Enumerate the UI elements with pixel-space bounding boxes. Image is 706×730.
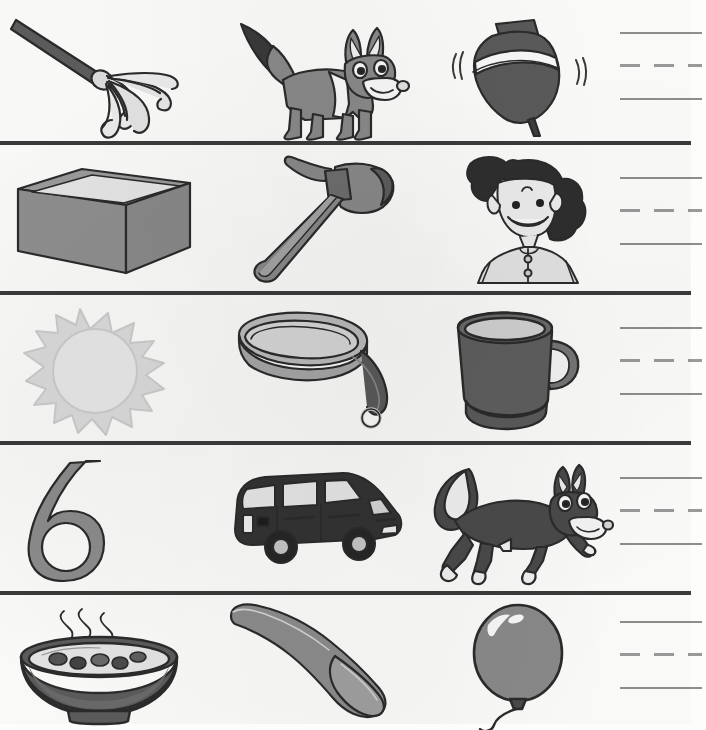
handwriting-line-top bbox=[620, 32, 702, 34]
picture-cell-mop bbox=[0, 0, 215, 150]
picture-cell-mug bbox=[420, 295, 615, 445]
answer-lines-cell bbox=[615, 0, 691, 150]
handwriting-line-top bbox=[620, 621, 702, 623]
van-icon bbox=[225, 455, 410, 585]
handwriting-line-bottom bbox=[620, 543, 702, 545]
handwriting-line-dashed bbox=[620, 509, 702, 512]
fox-running-icon bbox=[425, 455, 610, 585]
worksheet-row bbox=[0, 445, 691, 595]
picture-cell-soup bbox=[0, 595, 215, 730]
handwriting-line-dashed bbox=[620, 209, 702, 212]
handwriting-line-dashed bbox=[620, 64, 702, 67]
answer-lines-cell bbox=[615, 595, 691, 724]
sun-icon bbox=[8, 305, 208, 435]
handwriting-line-bottom bbox=[620, 687, 702, 689]
worksheet-row bbox=[0, 0, 691, 150]
picture-cell-box bbox=[0, 145, 215, 295]
pan-icon bbox=[225, 305, 410, 435]
soup-bowl-icon bbox=[8, 601, 208, 725]
handwriting-line-top bbox=[620, 477, 702, 479]
handwriting-line-bottom bbox=[620, 243, 702, 245]
handwriting-lines[interactable] bbox=[620, 327, 706, 401]
picture-cell-balloon bbox=[420, 595, 615, 728]
handwriting-line-dashed bbox=[620, 653, 702, 656]
picture-cell-van bbox=[215, 445, 420, 595]
picture-cell-fox bbox=[215, 0, 420, 150]
numeral-six-icon bbox=[8, 455, 208, 585]
fox-standing-icon bbox=[225, 10, 410, 140]
picture-cell-top bbox=[420, 0, 615, 150]
worksheet-row bbox=[0, 145, 691, 295]
spinning-top-icon bbox=[430, 10, 605, 140]
picture-cell-fox-running bbox=[420, 445, 615, 595]
mug-icon bbox=[430, 305, 605, 435]
answer-lines-cell bbox=[615, 145, 691, 295]
mom-icon bbox=[430, 155, 605, 285]
balloon-icon bbox=[430, 599, 605, 723]
spoon-icon bbox=[225, 598, 410, 722]
picture-cell-six bbox=[0, 445, 215, 595]
worksheet-row bbox=[0, 295, 691, 445]
picture-cell-ax bbox=[215, 145, 420, 295]
handwriting-line-top bbox=[620, 177, 702, 179]
picture-cell-pan bbox=[215, 295, 420, 445]
picture-cell-spoon bbox=[215, 595, 420, 724]
ax-icon bbox=[225, 155, 410, 285]
handwriting-line-top bbox=[620, 327, 702, 329]
answer-lines-cell bbox=[615, 445, 691, 595]
handwriting-line-bottom bbox=[620, 98, 702, 100]
handwriting-lines[interactable] bbox=[620, 621, 706, 695]
box-icon bbox=[8, 155, 208, 285]
answer-lines-cell bbox=[615, 295, 691, 445]
mop-icon bbox=[8, 10, 208, 140]
handwriting-line-bottom bbox=[620, 393, 702, 395]
picture-cell-sun bbox=[0, 295, 215, 445]
worksheet-row bbox=[0, 595, 691, 724]
handwriting-line-dashed bbox=[620, 359, 702, 362]
picture-cell-mom bbox=[420, 145, 615, 295]
handwriting-lines[interactable] bbox=[620, 177, 706, 251]
handwriting-lines[interactable] bbox=[620, 32, 706, 106]
handwriting-lines[interactable] bbox=[620, 477, 706, 551]
